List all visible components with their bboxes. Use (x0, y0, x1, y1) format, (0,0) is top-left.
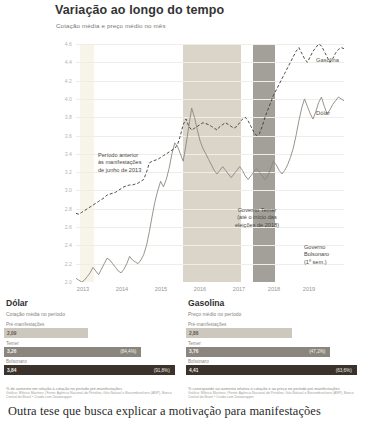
x-tick-label: 2018 (261, 286, 287, 292)
annotation-line: (1º sem.) (304, 259, 344, 266)
y-tick-label: 3.0 (52, 187, 72, 193)
bar-percent: (84,4%) (120, 349, 136, 354)
bar-value: 4,41 (189, 368, 198, 373)
panel-title: Gasolina (188, 298, 362, 308)
bar-pre-manifestacoes: 2,09 (4, 328, 88, 338)
annotation-line: eleições de 2018) (221, 222, 293, 229)
panel-dolar: Dólar Cotação média no período Pré-manif… (4, 298, 180, 378)
panel-footnote: % de aumento em relação à cotação no per… (6, 386, 178, 400)
bar-percent: (47,2%) (309, 349, 325, 354)
x-tick-label: 2013 (70, 286, 96, 292)
bar-label: Pré-manifestações (188, 322, 362, 327)
annotation-pre-manifestacoes: Período anterior às manifestações de jun… (98, 152, 172, 174)
y-tick-label: 4.2 (52, 78, 72, 84)
x-tick-label: 2017 (226, 286, 252, 292)
bar-value: 2,86 (189, 331, 198, 336)
annotation-line: Governo Temer (221, 207, 293, 214)
panel-gasolina: Gasolina Preço médio no período Pré-mani… (186, 298, 362, 378)
bar-label: Bolsonaro (6, 359, 180, 364)
y-tick-label: 2.2 (52, 261, 72, 267)
x-tick-label: 2016 (187, 286, 213, 292)
time-series-chart: Período anterior às manifestações de jun… (56, 40, 356, 290)
annotation-governo-bolsonaro: Governo Bolsonaro (1º sem.) (304, 244, 344, 266)
bar-value: 3,76 (189, 349, 198, 354)
y-tick-label: 3.2 (52, 169, 72, 175)
bar-label: Pré-manifestações (6, 322, 180, 327)
bar-percent: (91,8%) (154, 368, 170, 373)
bar-temer: 3,26 (84,4%) (4, 347, 141, 357)
annotation-line: de junho de 2013 (98, 167, 172, 174)
bar-value: 3,26 (7, 349, 16, 354)
source-text: Gráfico: Mônica Martinez | Fonte: Agênci… (6, 391, 178, 400)
summary-panels: Dólar Cotação média no período Pré-manif… (0, 298, 366, 398)
article-paragraph: Outra tese que busca explicar a motivaçã… (8, 404, 364, 419)
page-subtitle: Cotação média e preço médio no mês (56, 22, 166, 29)
annotation-line: Governo (304, 244, 344, 251)
annotation-line: (até o início das (221, 214, 293, 221)
y-tick-label: 4.6 (52, 41, 72, 47)
y-tick-label: 2.4 (52, 242, 72, 248)
source-text: Gráfico: Mônica Martinez | Fonte: Agênci… (188, 391, 360, 400)
bar-group: Bolsonaro 3,84 (91,8%) (4, 359, 180, 375)
bar-group: Temer 3,26 (84,4%) (4, 341, 180, 357)
bar-bolsonaro: 4,41 (63,6%) (186, 365, 357, 375)
bar-bolsonaro: 3,84 (91,8%) (4, 365, 175, 375)
x-tick-label: 2015 (148, 286, 174, 292)
bar-label: Temer (188, 341, 362, 346)
y-tick-label: 2.8 (52, 206, 72, 212)
x-tick-label: 2019 (296, 286, 322, 292)
bar-group: Pré-manifestações 2,09 (4, 322, 180, 338)
bar-temer: 3,76 (47,2%) (186, 347, 330, 357)
bar-group: Pré-manifestações 2,86 (186, 322, 362, 338)
y-tick-label: 2.0 (52, 279, 72, 285)
series-label-gasolina: Gasolina (316, 57, 339, 63)
series-line-gasolina (76, 44, 344, 214)
y-tick-label: 3.4 (52, 151, 72, 157)
annotation-governo-temer: Governo Temer (até o início das eleições… (221, 207, 293, 229)
y-tick-label: 4.0 (52, 96, 72, 102)
x-tick-label: 2014 (109, 286, 135, 292)
chart-plot-area: Período anterior às manifestações de jun… (76, 44, 344, 282)
bar-percent: (63,6%) (336, 368, 352, 373)
panel-subtitle: Cotação média no período (6, 311, 180, 317)
annotation-line: às manifestações (98, 159, 172, 166)
infographic-page: Variação ao longo do tempo Cotação média… (0, 0, 366, 423)
bar-value: 3,84 (7, 368, 16, 373)
y-tick-label: 2.6 (52, 224, 72, 230)
annotation-line: Bolsonaro (304, 251, 344, 258)
page-title: Variação ao longo do tempo (55, 3, 224, 17)
bar-group: Bolsonaro 4,41 (63,6%) (186, 359, 362, 375)
series-label-dolar: Dólar (316, 110, 330, 116)
y-tick-label: 4.4 (52, 59, 72, 65)
bar-label: Temer (6, 341, 180, 346)
y-tick-label: 3.8 (52, 114, 72, 120)
y-tick-label: 3.6 (52, 133, 72, 139)
bar-value: 2,09 (7, 331, 16, 336)
panel-title: Dólar (6, 298, 180, 308)
bar-pre-manifestacoes: 2,86 (186, 328, 292, 338)
panel-subtitle: Preço médio no período (188, 311, 362, 317)
bar-label: Bolsonaro (188, 359, 362, 364)
bar-group: Temer 3,76 (47,2%) (186, 341, 362, 357)
annotation-line: Período anterior (98, 152, 172, 159)
panel-footnote: % corresponde ao aumento relativo à cota… (188, 386, 360, 400)
